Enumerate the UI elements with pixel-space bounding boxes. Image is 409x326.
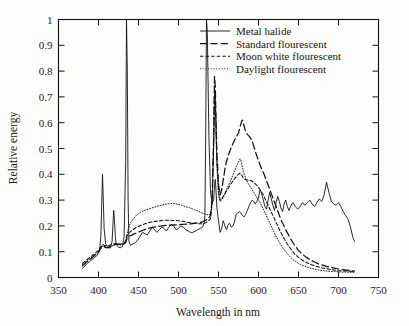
y-tick-label: 0 [47, 272, 53, 284]
x-tick-label: 400 [90, 284, 107, 296]
x-axis-tick-labels: 350400450500550600650700750 [50, 284, 387, 296]
x-tick-label: 500 [170, 284, 187, 296]
y-tick-label: 0.1 [39, 246, 53, 258]
y-axis-title: Relative energy [7, 112, 20, 185]
y-tick-label: 0.7 [39, 91, 53, 103]
legend-label-standard-flourescent: Standard flourescent [236, 38, 327, 50]
x-tick-label: 700 [330, 284, 347, 296]
y-tick-label: 0.2 [39, 220, 53, 232]
y-tick-label: 0.3 [39, 194, 53, 206]
chart-canvas: 350400450500550600650700750 00.10.20.30.… [0, 0, 409, 326]
legend-label-metal-halide: Metal halide [236, 25, 291, 37]
spectral-power-distribution-chart: 350400450500550600650700750 00.10.20.30.… [0, 0, 409, 326]
x-axis-title: Wavelength in nm [176, 306, 260, 319]
x-tick-label: 350 [50, 284, 67, 296]
y-tick-label: 0.6 [39, 117, 53, 129]
x-tick-label: 650 [290, 284, 307, 296]
y-tick-label: 0.8 [39, 65, 53, 77]
y-tick-label: 1 [47, 14, 53, 26]
x-tick-label: 550 [210, 284, 227, 296]
y-tick-label: 0.5 [39, 143, 53, 155]
legend-label-daylight-flourescent: Daylight flourescent [236, 63, 326, 75]
x-tick-label: 750 [370, 284, 387, 296]
x-tick-label: 450 [130, 284, 147, 296]
legend-label-moon-white-flourescent: Moon white flourescent [236, 50, 341, 62]
y-tick-label: 0.9 [39, 39, 53, 51]
y-tick-label: 0.4 [39, 168, 53, 180]
x-tick-label: 600 [250, 284, 267, 296]
